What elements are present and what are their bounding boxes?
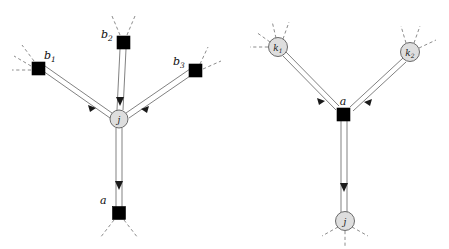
factor-node-square[interactable] <box>117 36 130 49</box>
canvas-background <box>0 0 449 249</box>
factor-node-square[interactable] <box>189 64 202 77</box>
factor-node-square[interactable] <box>32 62 45 75</box>
node-right-j[interactable]: j <box>336 212 355 231</box>
node-k1[interactable]: k1 <box>269 38 288 57</box>
factor-node-square[interactable] <box>113 207 126 220</box>
factor-graph-message-passing-diagram: b1 b2 b3 j a <box>0 0 449 249</box>
node-right-a-label: a <box>340 95 347 108</box>
node-left-a-label: a <box>100 194 107 207</box>
node-k2[interactable]: k2 <box>401 43 420 62</box>
node-left-j[interactable]: j <box>110 110 128 128</box>
factor-node-square[interactable] <box>337 108 350 121</box>
